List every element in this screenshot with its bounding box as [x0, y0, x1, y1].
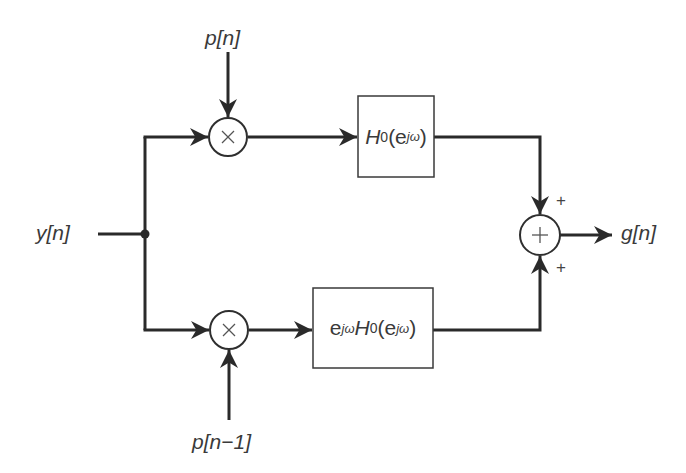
output-label: g[n] — [621, 221, 656, 245]
bottom-wire-to-adder — [433, 256, 540, 330]
top-wire-to-adder — [434, 137, 540, 214]
adder-bottom-sign: + — [556, 258, 566, 278]
filter-arg-sup: jω — [407, 129, 420, 144]
filter-subscript: 0 — [380, 129, 388, 145]
input-label: y[n] — [36, 221, 70, 245]
block-diagram-canvas — [0, 0, 686, 473]
filter-prefix: e — [330, 316, 342, 340]
filter-arg-close: ) — [409, 316, 416, 340]
filter-arg-open: (e — [388, 125, 407, 149]
top-modulating-signal-label: p[n] — [205, 26, 240, 50]
bottom-modulating-signal-label: p[n−1] — [192, 430, 251, 454]
filter-prefix-sup: jω — [342, 321, 355, 336]
adder-node — [520, 215, 560, 255]
top-multiplier-node — [209, 118, 247, 156]
adder-top-sign: + — [556, 191, 566, 211]
filter-arg-sup: jω — [396, 321, 409, 336]
top-filter-label: H0(ejω) — [358, 96, 434, 177]
filter-subscript: 0 — [370, 320, 378, 336]
bottom-filter-label: ejωH0(ejω) — [313, 288, 433, 368]
filter-arg-open: (e — [377, 316, 396, 340]
filter-base: H — [355, 316, 370, 340]
bottom-multiplier-node — [210, 311, 248, 349]
filter-base: H — [365, 125, 380, 149]
filter-arg-close: ) — [420, 125, 427, 149]
